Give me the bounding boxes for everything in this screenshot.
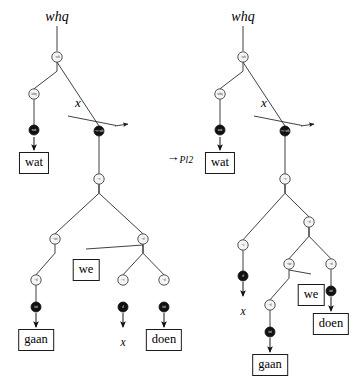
- derivation-node-filled: wat: [29, 125, 39, 135]
- tree-edge-diagonal: [36, 253, 55, 275]
- figure-canvas: +whwhqwat=v+wh=v=inf=dinf=d=vd=dinf+whwh…: [0, 0, 364, 387]
- tree-edge-diagonal: [99, 193, 143, 234]
- tree-edge-diagonal: [309, 236, 331, 259]
- movement-source-line: [254, 116, 302, 126]
- tree-edge-diagonal: [34, 71, 57, 89]
- derivation-node-open: =d: [138, 234, 148, 244]
- tree-edges: [34, 26, 331, 352]
- derivation-node-open: =v: [238, 240, 248, 250]
- derivation-node-filled: inf: [326, 286, 336, 296]
- derivation-node-open: whq: [29, 89, 39, 99]
- derivation-node-open: =v: [118, 275, 128, 285]
- derivation-node-open: whq: [215, 89, 225, 99]
- tree-edge-long: [243, 62, 285, 126]
- tree-edge-diagonal: [143, 253, 164, 275]
- node-feature-label: whq: [217, 92, 223, 96]
- tree-edge-diagonal: [285, 193, 309, 217]
- node-feature-label: =d: [307, 220, 311, 224]
- tree-edge-diagonal: [289, 236, 309, 259]
- node-feature-label: whq: [31, 92, 37, 96]
- node-feature-label: =v+wh: [95, 129, 104, 133]
- derivation-node-open: +wh: [238, 52, 248, 62]
- tree-edge-to-word: [86, 245, 143, 249]
- derivation-node-filled: wat: [215, 125, 225, 135]
- derivation-node-open: =d: [159, 275, 169, 285]
- node-feature-label: wat: [218, 128, 223, 132]
- derivation-node-filled: d: [238, 271, 248, 281]
- node-feature-label: +wh: [54, 55, 60, 59]
- tree-nodes: +whwhqwat=v+wh=v=inf=dinf=d=vd=dinf+whwh…: [29, 52, 336, 337]
- movement-arrow: [301, 124, 314, 126]
- derivation-tree-graphics: +whwhqwat=v+wh=v=inf=dinf=d=vd=dinf+whwh…: [0, 0, 364, 387]
- tree-edge-diagonal: [243, 193, 285, 240]
- derivation-node-filled: d: [118, 302, 128, 312]
- derivation-node-filled: inf: [265, 327, 275, 337]
- node-feature-label: =v: [97, 177, 101, 181]
- node-feature-label: =d: [329, 262, 333, 266]
- derivation-node-filled: inf: [159, 302, 169, 312]
- derivation-node-open: =d: [326, 259, 336, 269]
- node-feature-label: =d: [162, 278, 166, 282]
- tree-edge-diagonal: [220, 71, 243, 89]
- derivation-node-open: +wh: [52, 52, 62, 62]
- tree-edge-to-word: [289, 270, 311, 274]
- derivation-node-open: =d: [265, 300, 275, 310]
- movement-source-line: [68, 116, 116, 126]
- operation-arrow-symbol: →: [167, 149, 180, 164]
- movement-arrow: [115, 124, 128, 126]
- derivation-node-open: =d: [304, 217, 314, 227]
- node-feature-label: +wh: [240, 55, 246, 59]
- operation-arrow-label: →Pl2: [167, 149, 194, 165]
- tree-edge-diagonal: [270, 278, 289, 300]
- operation-arrow-subscript: Pl2: [180, 155, 194, 165]
- derivation-node-filled: inf: [31, 302, 41, 312]
- derivation-node-open: =inf: [284, 259, 294, 269]
- derivation-node-open: =d: [31, 275, 41, 285]
- node-feature-label: =d: [268, 303, 272, 307]
- derivation-node-open: =inf: [50, 234, 60, 244]
- derivation-node-open: =v: [280, 174, 290, 184]
- tree-edge-long: [57, 62, 99, 126]
- node-feature-label: =v: [121, 278, 125, 282]
- node-feature-label: =d: [34, 278, 38, 282]
- derivation-node-filled: =v+wh: [280, 126, 290, 136]
- node-feature-label: wat: [32, 128, 37, 132]
- tree-edge-diagonal: [123, 253, 143, 275]
- derivation-node-open: =v: [94, 174, 104, 184]
- node-feature-label: =d: [141, 237, 145, 241]
- node-feature-label: =v: [241, 243, 245, 247]
- tree-edge-diagonal: [55, 193, 99, 234]
- node-feature-label: =v+wh: [281, 129, 290, 133]
- derivation-node-filled: =v+wh: [94, 126, 104, 136]
- node-feature-label: =v: [283, 177, 287, 181]
